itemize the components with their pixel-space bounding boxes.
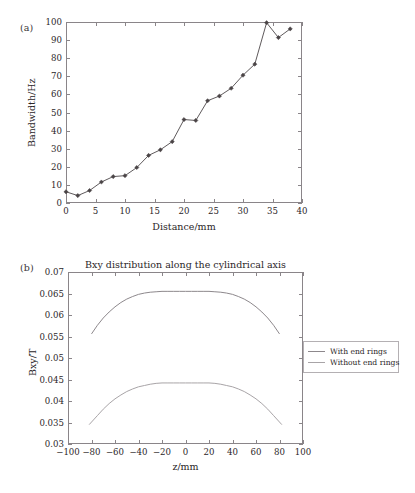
- y-tick-label: 0.07: [22, 267, 64, 277]
- x-tick-mark: [273, 22, 274, 26]
- x-tick-mark: [273, 199, 274, 203]
- x-tick-mark: [92, 272, 93, 276]
- y-tick-label: 0.03: [22, 439, 64, 449]
- y-tick-mark: [68, 294, 72, 295]
- y-tick-mark: [68, 272, 72, 273]
- legend-label-without-end-rings: Without end rings: [330, 359, 399, 367]
- x-tick-mark: [302, 22, 303, 26]
- x-tick-mark: [243, 199, 244, 203]
- x-tick-mark: [125, 22, 126, 26]
- y-tick-label: 10: [20, 180, 62, 190]
- data-point-marker: [76, 193, 80, 197]
- data-point-marker: [111, 174, 115, 178]
- y-tick-mark: [66, 167, 70, 168]
- y-tick-mark: [66, 94, 70, 95]
- y-tick-mark: [68, 380, 72, 381]
- y-tick-mark: [299, 401, 303, 402]
- x-axis-title-z: z/mm: [156, 461, 216, 472]
- y-tick-mark: [298, 131, 302, 132]
- x-tick-mark: [155, 199, 156, 203]
- y-tick-mark: [68, 315, 72, 316]
- y-tick-label: 20: [20, 162, 62, 172]
- x-tick-mark: [214, 22, 215, 26]
- legend-swatch-with-end-rings: [308, 351, 325, 352]
- y-tick-label: 0.04: [22, 396, 64, 406]
- y-tick-label: 0.045: [22, 375, 64, 385]
- legend-item-without-end-rings: Without end rings: [308, 357, 393, 368]
- x-tick-mark: [96, 22, 97, 26]
- x-tick-mark: [92, 440, 93, 444]
- y-tick-mark: [66, 149, 70, 150]
- y-tick-mark: [66, 185, 70, 186]
- y-tick-mark: [299, 294, 303, 295]
- x-tick-label: 100: [283, 447, 323, 457]
- y-tick-mark: [299, 380, 303, 381]
- x-tick-mark: [115, 272, 116, 276]
- y-tick-mark: [299, 423, 303, 424]
- y-tick-mark: [68, 423, 72, 424]
- x-tick-mark: [139, 272, 140, 276]
- data-point-marker: [194, 118, 198, 122]
- y-tick-mark: [66, 40, 70, 41]
- x-tick-mark: [303, 272, 304, 276]
- y-tick-mark: [66, 58, 70, 59]
- x-tick-mark: [256, 440, 257, 444]
- y-tick-label: 100: [20, 17, 62, 27]
- x-tick-mark: [302, 199, 303, 203]
- y-tick-mark: [298, 203, 302, 204]
- y-tick-label: 90: [20, 35, 62, 45]
- y-tick-mark: [66, 113, 70, 114]
- y-tick-mark: [298, 185, 302, 186]
- x-tick-mark: [233, 272, 234, 276]
- x-tick-mark: [155, 22, 156, 26]
- y-tick-mark: [298, 40, 302, 41]
- y-tick-mark: [299, 444, 303, 445]
- y-tick-mark: [298, 22, 302, 23]
- legend-box: With end rings Without end rings: [303, 341, 399, 373]
- y-tick-mark: [68, 337, 72, 338]
- y-tick-label: 0.035: [22, 418, 64, 428]
- y-tick-mark: [68, 444, 72, 445]
- legend-label-with-end-rings: With end rings: [330, 348, 387, 356]
- y-tick-mark: [66, 131, 70, 132]
- y-tick-mark: [299, 337, 303, 338]
- y-tick-mark: [66, 76, 70, 77]
- data-point-marker: [206, 99, 210, 103]
- y-tick-label: 0: [20, 198, 62, 208]
- x-tick-mark: [209, 440, 210, 444]
- x-tick-mark: [162, 272, 163, 276]
- y-tick-mark: [298, 113, 302, 114]
- bandwidth-line: [66, 23, 290, 196]
- legend-swatch-without-end-rings: [308, 362, 325, 363]
- x-tick-mark: [162, 440, 163, 444]
- x-axis-title-distance: Distance/mm: [149, 221, 219, 232]
- x-tick-mark: [303, 440, 304, 444]
- y-axis-title-bandwidth: Bandwidth/Hz: [26, 78, 37, 147]
- x-tick-mark: [280, 272, 281, 276]
- y-tick-mark: [298, 167, 302, 168]
- x-tick-mark: [186, 440, 187, 444]
- y-tick-mark: [68, 401, 72, 402]
- y-tick-mark: [68, 358, 72, 359]
- y-tick-mark: [299, 315, 303, 316]
- x-tick-mark: [186, 272, 187, 276]
- x-tick-mark: [125, 199, 126, 203]
- x-tick-mark: [115, 440, 116, 444]
- y-tick-mark: [66, 22, 70, 23]
- x-tick-mark: [209, 272, 210, 276]
- x-tick-mark: [184, 22, 185, 26]
- y-tick-mark: [299, 272, 303, 273]
- x-tick-mark: [280, 440, 281, 444]
- data-point-marker: [64, 190, 68, 194]
- y-tick-label: 0.06: [22, 310, 64, 320]
- y-axis-title-bxy: Bxy/T: [27, 349, 38, 376]
- curve-without-end-rings: [89, 383, 282, 425]
- y-tick-label: 0.065: [22, 289, 64, 299]
- x-tick-mark: [256, 272, 257, 276]
- x-tick-mark: [96, 199, 97, 203]
- x-tick-mark: [214, 199, 215, 203]
- legend-item-with-end-rings: With end rings: [308, 346, 393, 357]
- figure-container: (a) 051015202530354001020304050607080901…: [0, 0, 415, 493]
- curve-with-end-rings: [92, 291, 280, 334]
- x-tick-label: 40: [282, 206, 322, 216]
